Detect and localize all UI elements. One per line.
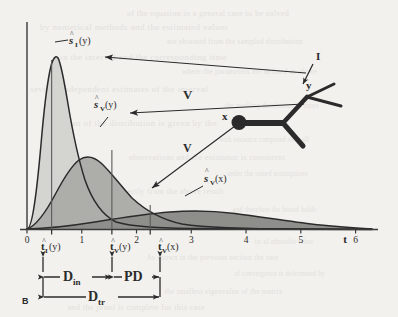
arrow-label-v-upper: V bbox=[183, 87, 193, 102]
bracket-label-d-tr-main: D bbox=[88, 289, 98, 304]
curve-label-s-v-y: ^ s V (y) bbox=[93, 94, 117, 127]
marker-label-t-v-y: ^ t V (y) bbox=[110, 237, 131, 255]
x-tick-label-2: 2 bbox=[134, 235, 139, 245]
svg-text:(y): (y) bbox=[49, 241, 61, 253]
x-tick-label-6: 6 bbox=[353, 235, 358, 245]
tree-node-x-label: x bbox=[222, 110, 228, 122]
bracket-label-d-in: D in bbox=[60, 267, 92, 287]
tree-twig-right bbox=[307, 97, 341, 106]
bracket-label-pd: PD bbox=[122, 267, 152, 284]
tree-labels-group: x y I bbox=[222, 50, 320, 122]
svg-text:s: s bbox=[68, 34, 73, 46]
phylogenetic-tree-glyph bbox=[232, 84, 342, 146]
svg-text:(y): (y) bbox=[79, 35, 91, 47]
x-tick-label-1: 1 bbox=[79, 235, 84, 245]
x-tick-label-0: 0 bbox=[25, 235, 30, 245]
density-curves-group bbox=[27, 57, 372, 230]
x-axis-tick-labels-group: 0123456 bbox=[25, 235, 359, 245]
figure-panel-b: 0123456 t ^ t I (y) ^ t V (y) ^ t V (x) bbox=[0, 0, 398, 317]
tree-branch-i-label: I bbox=[316, 50, 320, 62]
bracket-label-d-tr-sub: tr bbox=[98, 297, 105, 307]
bracket-label-d-tr: D tr bbox=[86, 288, 118, 307]
x-tick-label-4: 4 bbox=[244, 235, 249, 245]
arrow-v-labels-group: V V bbox=[183, 87, 193, 155]
bracket-label-d-in-main: D bbox=[63, 269, 73, 284]
tree-node-x-dot bbox=[232, 115, 247, 130]
curve-label-s-v-x: ^ s V (x) bbox=[185, 167, 227, 196]
marker-label-t-i-y: ^ t I (y) bbox=[41, 237, 61, 255]
svg-text:(x): (x) bbox=[215, 173, 227, 185]
marker-labels-group: ^ t I (y) ^ t V (y) ^ t V (x) bbox=[41, 237, 179, 255]
arrow-to-s-v-y bbox=[130, 104, 304, 113]
svg-text:s: s bbox=[93, 98, 98, 110]
svg-text:(y): (y) bbox=[105, 99, 117, 111]
x-tick-label-3: 3 bbox=[189, 235, 194, 245]
bracket-label-d-in-sub: in bbox=[73, 277, 81, 287]
tree-node-y-label: y bbox=[306, 79, 312, 91]
x-axis-label: t bbox=[343, 233, 347, 245]
curve-label-s-i-y: ^ s I (y) bbox=[55, 30, 91, 49]
x-tick-label-5: 5 bbox=[298, 235, 303, 245]
tree-lower-fork-branch bbox=[283, 123, 303, 146]
bracket-labels-group: D in PD D tr bbox=[60, 267, 152, 307]
marker-label-t-v-x: ^ t V (x) bbox=[158, 237, 179, 255]
svg-text:I: I bbox=[75, 41, 78, 49]
svg-text:(y): (y) bbox=[119, 241, 131, 253]
svg-text:(x): (x) bbox=[167, 241, 179, 253]
tree-upper-branch bbox=[283, 97, 307, 123]
arrow-to-s-i-y bbox=[105, 57, 306, 73]
svg-text:s: s bbox=[203, 172, 208, 184]
panel-label-b: B bbox=[22, 296, 29, 306]
bracket-label-pd-main: PD bbox=[124, 269, 143, 284]
svg-text:I: I bbox=[45, 247, 48, 255]
arrow-label-v-lower: V bbox=[183, 141, 192, 155]
